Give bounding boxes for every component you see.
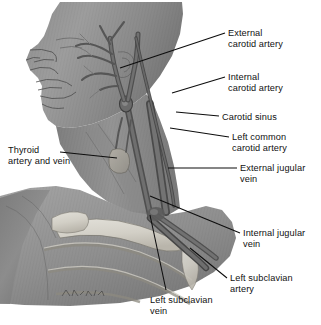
label-internal-carotid-artery: Internal carotid artery [228, 72, 283, 94]
label-internal-jugular-vein: Internal jugular vein [243, 228, 305, 250]
leader-internal-carotid-artery [172, 77, 225, 93]
label-left-common-carotid-artery: Left common carotid artery [232, 132, 287, 154]
leader-left-common-carotid-artery [170, 128, 229, 137]
label-left-subclavian-artery: Left subclavian artery [230, 273, 293, 295]
label-left-subclavian-vein: Left subclavian vein [150, 295, 213, 317]
label-external-carotid-artery: External carotid artery [228, 28, 283, 50]
label-carotid-sinus: Carotid sinus [222, 112, 277, 123]
label-external-jugular-vein: External jugular vein [240, 163, 305, 185]
label-thyroid-artery-and-vein: Thyroid artery and vein [8, 145, 70, 167]
anatomy-figure: External carotid artery Internal carotid… [0, 0, 321, 325]
leader-carotid-sinus [176, 112, 219, 116]
head-profile [26, 2, 183, 128]
